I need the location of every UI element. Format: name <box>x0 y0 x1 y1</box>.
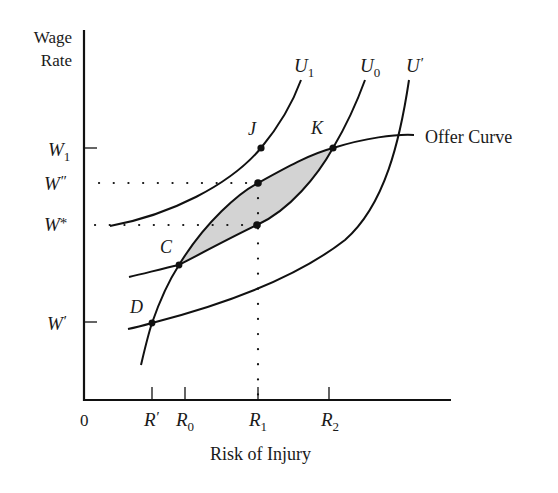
point-label-k: K <box>310 118 324 138</box>
y-tick-label-w-star: W* <box>44 214 67 235</box>
x-axis-label: Risk of Injury <box>210 444 311 464</box>
y-axis-label-line1: Wage <box>34 28 72 47</box>
curve-label-u1: U1 <box>294 55 314 80</box>
y-tick-label-w-prime: W′ <box>47 313 67 334</box>
point-w-star <box>253 221 261 229</box>
point-c <box>176 262 183 269</box>
y-tick-label-w-double-prime: W″ <box>44 173 67 194</box>
origin-label: 0 <box>80 411 89 430</box>
x-tick-label-r2: R2 <box>320 409 339 434</box>
point-w-double-prime <box>254 179 262 187</box>
x-tick-label-r1: R1 <box>248 409 267 434</box>
point-d <box>149 320 156 327</box>
point-label-j: J <box>248 119 257 139</box>
diagram-canvas: Wage Rate W1 W″ W* W′ 0 R′ R0 R1 R2 Risk… <box>0 0 558 493</box>
y-axis-label-line2: Rate <box>41 51 72 70</box>
point-label-d: D <box>129 297 143 317</box>
x-tick-label-r0: R0 <box>175 409 194 434</box>
curve-label-u-prime: U′ <box>406 55 424 76</box>
shaded-region <box>179 148 333 265</box>
x-tick-label-rprime: R′ <box>143 409 160 430</box>
point-label-c: C <box>160 237 173 257</box>
point-k <box>329 144 336 151</box>
curve-label-u0: U0 <box>360 55 380 80</box>
y-tick-label-w1: W1 <box>48 139 70 164</box>
point-j <box>257 144 264 151</box>
offer-curve-label: Offer Curve <box>425 127 512 147</box>
offer-curve <box>141 135 414 365</box>
